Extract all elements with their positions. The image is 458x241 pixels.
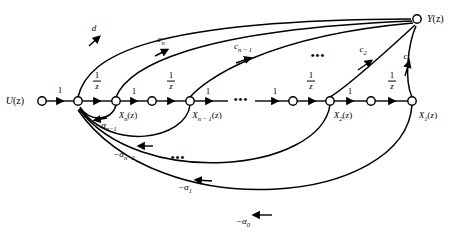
branch-c1: [408, 26, 416, 97]
feedforward-branches: [78, 19, 416, 97]
feedback-branches: [78, 105, 412, 215]
node-midn[interactable]: [148, 97, 156, 105]
node-xn[interactable]: [112, 97, 120, 105]
branch-d: [78, 19, 411, 97]
node-mid2[interactable]: [289, 97, 297, 105]
branch-cn-arrow: [155, 50, 167, 56]
signal-flow-graph-figure: U(z) Xn(z) Xn − 1(z) X2(z) X1(z) Y(z) 1 …: [0, 0, 458, 241]
node-u[interactable]: [38, 97, 46, 105]
graph-canvas: [0, 0, 458, 241]
branch-c2: [330, 25, 415, 97]
node-xn-1[interactable]: [186, 97, 194, 105]
node-mid1[interactable]: [367, 97, 375, 105]
node-y[interactable]: [413, 15, 421, 23]
branch-alpha-0: [78, 105, 412, 190]
branch-cn-1: [190, 23, 413, 97]
node-summing[interactable]: [74, 97, 82, 105]
node-x2[interactable]: [326, 97, 334, 105]
branch-alpha-1-arrow: [196, 180, 212, 181]
branch-cn: [116, 21, 412, 97]
branch-d-arrow: [89, 37, 99, 46]
node-x1[interactable]: [408, 97, 416, 105]
